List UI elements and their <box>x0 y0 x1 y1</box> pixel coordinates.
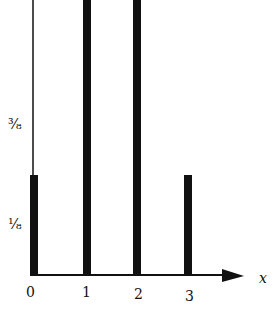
x-tick-label-3: 3 <box>185 289 194 303</box>
bar-x-1 <box>83 0 91 275</box>
x-tick-label-1: 1 <box>82 285 91 299</box>
x-axis-label: x <box>259 271 267 285</box>
x-tick-label-2: 2 <box>134 287 143 301</box>
bar-x-0 <box>30 175 38 275</box>
bar-chart <box>0 0 277 335</box>
bar-x-2 <box>133 0 141 275</box>
bar-x-3 <box>184 175 192 275</box>
y-tick-label-3-8: ³⁄₈ <box>8 117 22 131</box>
x-tick-label-0: 0 <box>26 285 35 299</box>
x-axis-arrow-icon <box>222 269 244 282</box>
y-tick-label-1-8: ¹⁄₈ <box>8 217 22 231</box>
